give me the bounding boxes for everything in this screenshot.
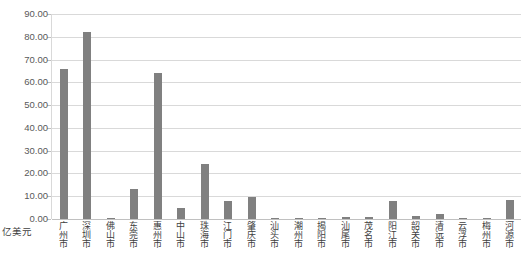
bar[interactable]: [83, 32, 91, 219]
bar-slot: [334, 14, 358, 219]
x-axis-tick-label: 梅州市: [481, 221, 490, 248]
bar[interactable]: [248, 197, 256, 219]
bar-slot: [99, 14, 123, 219]
bar-slot: [264, 14, 288, 219]
x-label-slot: 梅州市: [474, 221, 498, 274]
y-tick-label: 50.00: [2, 100, 48, 110]
x-label-slot: 清远市: [427, 221, 451, 274]
y-tick-label: 20.00: [2, 168, 48, 178]
x-label-slot: 佛山市: [98, 221, 122, 274]
x-label-slot: 汕头市: [263, 221, 287, 274]
x-axis-tick-label: 深圳市: [82, 221, 91, 248]
x-axis-tick-label: 江门市: [223, 221, 232, 248]
y-tick-label: 10.00: [2, 191, 48, 201]
bar-slot: [475, 14, 499, 219]
x-label-slot: 韶关市: [404, 221, 428, 274]
bar[interactable]: [459, 218, 467, 219]
x-axis-tick-label: 云浮市: [458, 221, 467, 248]
x-axis-tick-label: 佛山市: [105, 221, 114, 248]
x-label-slot: 深圳市: [75, 221, 99, 274]
y-tick-label: 30.00: [2, 146, 48, 156]
bar-slot: [287, 14, 311, 219]
bar[interactable]: [342, 217, 350, 219]
bar[interactable]: [295, 218, 303, 219]
x-label-slot: 珠海市: [192, 221, 216, 274]
bar[interactable]: [60, 69, 68, 219]
bar[interactable]: [201, 164, 209, 219]
x-axis-tick-label: 潮州市: [293, 221, 302, 248]
x-axis-tick-label: 惠州市: [152, 221, 161, 248]
x-label-slot: 惠州市: [145, 221, 169, 274]
bars-container: [52, 14, 521, 219]
bar-slot: [217, 14, 241, 219]
x-axis-tick-label: 广州市: [58, 221, 67, 248]
bar[interactable]: [412, 216, 420, 219]
bar[interactable]: [365, 217, 373, 219]
bar-slot: [52, 14, 76, 219]
unit-label: 亿美元: [2, 224, 32, 238]
x-label-slot: 潮州市: [286, 221, 310, 274]
x-axis-tick-label: 汕头市: [270, 221, 279, 248]
x-axis-tick-label: 珠海市: [199, 221, 208, 248]
x-axis-tick-label: 汕尾市: [340, 221, 349, 248]
y-tick-label: 70.00: [2, 55, 48, 65]
bar-slot: [452, 14, 476, 219]
x-axis-tick-label: 河源市: [505, 221, 514, 248]
x-axis-tick-label: 韶关市: [411, 221, 420, 248]
bar[interactable]: [177, 208, 185, 219]
bar-slot: [499, 14, 523, 219]
bar-slot: [76, 14, 100, 219]
y-tick-label: 40.00: [2, 123, 48, 133]
gridline-0-00: [52, 219, 521, 220]
bar-slot: [170, 14, 194, 219]
bar-slot: [146, 14, 170, 219]
x-label-slot: 阳江市: [380, 221, 404, 274]
bar-slot: [311, 14, 335, 219]
bar[interactable]: [506, 200, 514, 219]
y-tick-label: 0.00: [2, 214, 48, 224]
x-axis-tick-label: 阳江市: [387, 221, 396, 248]
x-label-slot: 汕尾市: [333, 221, 357, 274]
bar[interactable]: [154, 73, 162, 219]
bar-slot: [358, 14, 382, 219]
bar-slot: [123, 14, 147, 219]
plot-area: [51, 14, 521, 219]
bar-slot: [381, 14, 405, 219]
bar-chart: 90.0080.0070.0060.0050.0040.0030.0020.00…: [0, 0, 528, 274]
x-axis-tick-label: 茂名市: [364, 221, 373, 248]
bar-slot: [193, 14, 217, 219]
x-axis-tick-label: 揭阳市: [317, 221, 326, 248]
x-label-slot: 广州市: [51, 221, 75, 274]
x-axis-labels: 广州市深圳市佛山市东莞市惠州市中山市珠海市江门市肇庆市汕头市潮州市揭阳市汕尾市茂…: [51, 221, 521, 274]
x-label-slot: 东莞市: [122, 221, 146, 274]
bar[interactable]: [389, 201, 397, 219]
bar[interactable]: [224, 201, 232, 219]
bar-slot: [240, 14, 264, 219]
bar[interactable]: [318, 218, 326, 219]
x-label-slot: 河源市: [498, 221, 522, 274]
x-label-slot: 揭阳市: [310, 221, 334, 274]
x-label-slot: 中山市: [169, 221, 193, 274]
bar-slot: [405, 14, 429, 219]
x-axis-tick-label: 东莞市: [129, 221, 138, 248]
x-axis-tick-label: 中山市: [176, 221, 185, 248]
y-tick-label: 90.00: [2, 9, 48, 19]
x-label-slot: 茂名市: [357, 221, 381, 274]
x-axis-tick-label: 肇庆市: [246, 221, 255, 248]
bar[interactable]: [130, 189, 138, 219]
bar[interactable]: [436, 214, 444, 219]
x-axis-tick-label: 清远市: [434, 221, 443, 248]
x-label-slot: 江门市: [216, 221, 240, 274]
bar-slot: [428, 14, 452, 219]
y-tick-label: 60.00: [2, 77, 48, 87]
x-label-slot: 肇庆市: [239, 221, 263, 274]
bar[interactable]: [271, 218, 279, 219]
y-tick-label: 80.00: [2, 32, 48, 42]
bar[interactable]: [107, 218, 115, 219]
bar[interactable]: [483, 218, 491, 219]
x-label-slot: 云浮市: [451, 221, 475, 274]
